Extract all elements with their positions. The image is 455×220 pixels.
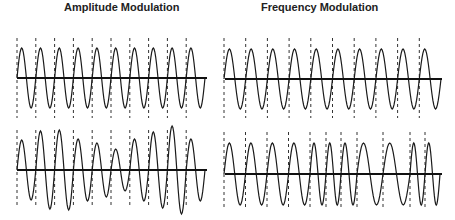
fm-carrier-panel (224, 38, 442, 118)
modulation-diagram (0, 0, 455, 220)
fm-modulated-panel (224, 132, 442, 210)
am-modulated-panel (17, 126, 207, 214)
am-carrier-panel (17, 38, 207, 118)
